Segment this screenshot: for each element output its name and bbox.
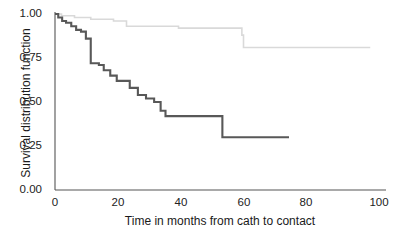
- survival-chart-figure: 1.00 0.75 0.50 0.25 0.00 0 20 40 60 80 1…: [0, 0, 395, 234]
- survival-curve-lower-group: [55, 14, 289, 137]
- survival-curve-higher-group: [55, 14, 370, 47]
- plot-area: [0, 0, 395, 234]
